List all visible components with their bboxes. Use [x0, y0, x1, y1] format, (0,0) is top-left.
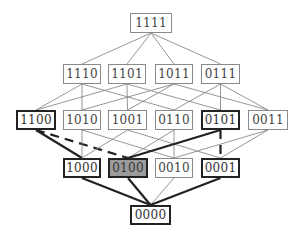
edge-0111-0011 [221, 84, 269, 110]
node-1101: 1101 [108, 64, 146, 84]
node-label: 1010 [66, 113, 98, 127]
edge-1101-0101 [127, 84, 221, 110]
node-1000: 1000 [63, 158, 101, 178]
node-1010: 1010 [63, 110, 101, 130]
node-0110: 0110 [155, 110, 193, 130]
node-1111: 1111 [130, 13, 172, 33]
node-1100: 1100 [16, 110, 56, 130]
edge-1110-1100 [36, 84, 82, 110]
node-0100: 0100 [108, 158, 148, 178]
edge-1001-1000 [82, 130, 128, 158]
node-label: 0100 [112, 161, 144, 175]
node-label: 1000 [66, 161, 98, 175]
node-0010: 0010 [155, 158, 193, 178]
edge-1101-1100 [36, 84, 127, 110]
edge-1100-1000 [36, 130, 82, 158]
node-label: 0011 [252, 113, 284, 127]
edge-0111-0110 [174, 84, 221, 110]
node-label: 0110 [158, 113, 190, 127]
node-label: 1011 [158, 67, 190, 81]
node-label: 1001 [112, 113, 144, 127]
edge-1111-1101 [127, 33, 151, 64]
node-label: 0001 [205, 161, 237, 175]
node-0000: 0000 [130, 205, 171, 225]
edge-0011-0001 [221, 130, 269, 158]
node-label: 1100 [20, 113, 52, 127]
node-label: 0010 [158, 161, 190, 175]
node-0111: 0111 [201, 64, 240, 84]
edge-0110-0100 [128, 130, 174, 158]
node-label: 1111 [135, 16, 167, 30]
node-0101: 0101 [201, 110, 240, 130]
node-0011: 0011 [248, 110, 288, 130]
node-label: 1101 [111, 67, 143, 81]
node-label: 1110 [66, 67, 98, 81]
edge-1011-1001 [128, 84, 175, 110]
node-label: 0101 [205, 113, 237, 127]
edge-1111-0111 [151, 33, 221, 64]
node-0001: 0001 [201, 158, 240, 178]
edge-1011-0011 [174, 84, 268, 110]
node-1011: 1011 [155, 64, 193, 84]
edge-1010-0010 [82, 130, 174, 158]
node-label: 0000 [135, 208, 167, 222]
node-1110: 1110 [63, 64, 101, 84]
edge-1111-1110 [82, 33, 151, 64]
node-label: 0111 [205, 67, 237, 81]
node-1001: 1001 [108, 110, 147, 130]
edge-0001-0000 [151, 178, 221, 205]
